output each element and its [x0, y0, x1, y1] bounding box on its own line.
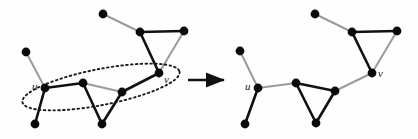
right-node-u [254, 84, 263, 93]
left-edge-t0-t1-gray [103, 14, 140, 32]
right-edge-c2-c3-black [316, 91, 335, 123]
left-edge-u-c1-black [45, 83, 83, 88]
left-node-b0 [31, 120, 40, 129]
left-edge-t2-v-gray [159, 31, 184, 73]
right-node-v [368, 69, 377, 78]
left-graph-nodes [22, 10, 189, 129]
right-node-b0 [241, 120, 250, 129]
left-edge-u-b0-black [35, 88, 45, 124]
label-u-left: u [32, 80, 38, 92]
left-edge-c2-c3-black [102, 92, 122, 124]
right-edge-t1-v-black [352, 32, 372, 73]
right-edge-c3-v-gray [335, 73, 372, 91]
left-edge-c1-c3-gray [83, 83, 122, 92]
right-node-t2 [393, 27, 402, 36]
right-edge-t1-t2-black [352, 31, 397, 32]
left-node-c1 [79, 79, 88, 88]
right-edge-t2-v-gray [372, 31, 397, 73]
left-node-a0 [22, 48, 31, 57]
left-node-c2 [98, 120, 107, 129]
right-edge-c1-c2-black [296, 83, 316, 123]
left-node-t0 [99, 10, 108, 19]
label-v-right: v [378, 67, 383, 79]
left-node-v [155, 69, 164, 78]
right-node-t1 [348, 28, 357, 37]
right-edge-u-c1-gray [258, 83, 296, 88]
right-node-a0 [236, 47, 245, 56]
label-v-left: v [164, 73, 169, 85]
left-edge-c3-v-black [122, 73, 159, 92]
right-node-c3 [331, 87, 340, 96]
left-edge-t1-v-black [140, 32, 159, 73]
right-edge-u-b0-black [245, 88, 258, 124]
right-node-c1 [292, 79, 301, 88]
label-u-right: u [245, 80, 251, 92]
left-edge-t1-t2-black [140, 31, 184, 32]
left-node-c3 [118, 88, 127, 97]
right-node-t0 [311, 10, 320, 19]
right-edge-t0-t1-gray [315, 14, 352, 32]
left-node-u [41, 84, 50, 93]
right-graph-nodes [236, 10, 402, 129]
left-node-t2 [180, 27, 189, 36]
left-edge-c1-c2-black [83, 83, 102, 124]
right-edge-c1-c3-black [296, 83, 335, 91]
right-node-c2 [312, 119, 321, 128]
left-node-t1 [136, 28, 145, 37]
figure-canvas: uvuv [0, 0, 418, 139]
graph-transformation-figure: uvuv [0, 0, 418, 139]
